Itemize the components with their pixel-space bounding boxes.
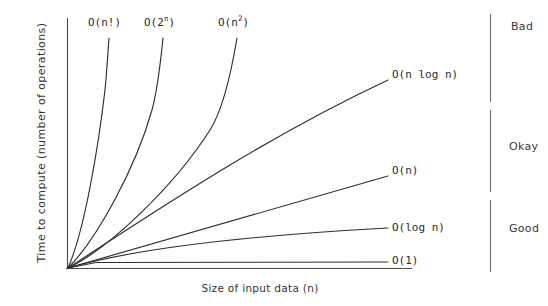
series-label-exponential-close: ) bbox=[168, 16, 175, 29]
y-axis-title: Time to compute (number of operations) bbox=[35, 18, 48, 268]
series-label-exponential-base: O(2 bbox=[144, 16, 164, 29]
zone-label-good: Good bbox=[509, 222, 539, 235]
series-label-exponential: O(2n) bbox=[144, 16, 175, 29]
curve-constant bbox=[68, 262, 388, 268]
series-label-factorial: O(n!) bbox=[88, 16, 121, 29]
series-label-linearithmic: O(n log n) bbox=[392, 68, 458, 81]
big-o-complexity-chart: Time to compute (number of operations) S… bbox=[0, 0, 548, 306]
series-label-constant: O(1) bbox=[392, 254, 419, 267]
series-label-linear: O(n) bbox=[392, 164, 419, 177]
series-label-quadratic-close: ) bbox=[242, 16, 249, 29]
series-label-quadratic: O(n2) bbox=[218, 16, 249, 29]
x-axis-title: Size of input data (n) bbox=[150, 282, 370, 294]
series-label-quadratic-base: O(n bbox=[218, 16, 238, 29]
curve-linear bbox=[68, 176, 388, 268]
series-label-logarithmic: O(log n) bbox=[392, 221, 445, 234]
zone-label-okay: Okay bbox=[509, 140, 538, 153]
chart-canvas bbox=[0, 0, 548, 306]
curve-factorial bbox=[68, 38, 109, 268]
zone-label-bad: Bad bbox=[511, 20, 533, 33]
curve-quadratic bbox=[68, 38, 237, 268]
curve-exponential bbox=[68, 38, 163, 268]
